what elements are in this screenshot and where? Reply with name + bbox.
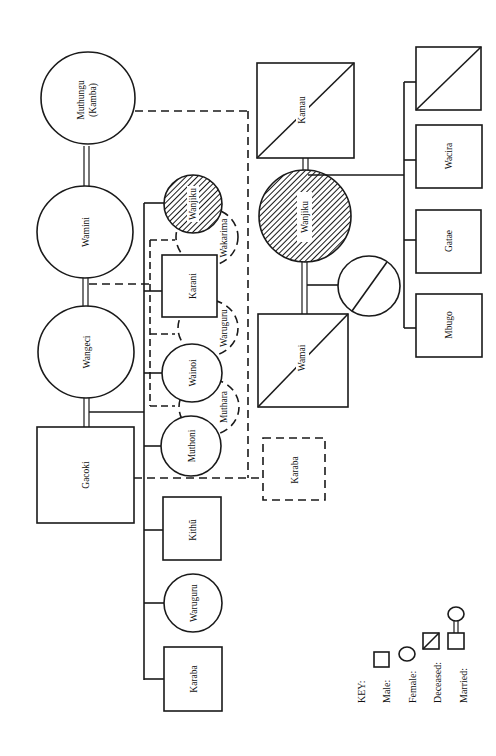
label-wanjiku-right: Wanjiku bbox=[300, 201, 310, 233]
person-karani: Karani bbox=[162, 255, 217, 317]
person-kithu: Kithũ bbox=[163, 497, 221, 560]
marriage-link-wangeci-gacoki bbox=[84, 398, 89, 427]
label-waruguru-daughter: Waruguru bbox=[189, 584, 199, 622]
person-kamau: Kamau bbox=[257, 63, 354, 158]
label-muthoni: Muthoni bbox=[187, 429, 197, 462]
person-wainoi: Wainoi bbox=[162, 344, 222, 402]
label-wainoi: Wainoi bbox=[188, 359, 198, 387]
legend-female-label: Female: bbox=[407, 671, 418, 703]
label-wangeci: Wangeci bbox=[82, 335, 92, 368]
label-wacira: Wacira bbox=[444, 142, 454, 169]
label-muthungu-kamba: (Kamba) bbox=[88, 83, 99, 117]
person-wangeci: Wangeci bbox=[38, 306, 134, 398]
person-wanjiku-right: Wanjiku bbox=[259, 170, 351, 262]
marriage-link-wanjiku-wamai bbox=[302, 262, 307, 314]
person-unnamed-deceased-male bbox=[416, 47, 481, 110]
legend-deceased-icon bbox=[423, 633, 439, 649]
legend-male-icon bbox=[374, 652, 389, 667]
legend-deceased-label: Deceased: bbox=[432, 662, 443, 703]
person-unnamed-deceased-female bbox=[338, 256, 400, 316]
person-wamini: Wamini bbox=[37, 186, 133, 278]
label-mbugo: Mbugo bbox=[444, 311, 454, 339]
marriage-link-kamau-wanjiku bbox=[303, 158, 308, 170]
legend-female-icon bbox=[399, 647, 415, 661]
label-wanjiku-left: Wanjiku bbox=[188, 188, 198, 220]
person-wacira: Wacira bbox=[416, 125, 482, 188]
marriage-link-wamini-wangeci bbox=[83, 278, 88, 306]
label-muthara: Muthara bbox=[219, 390, 229, 423]
label-waruguru-wife: Waruguru bbox=[219, 309, 229, 347]
person-gacoki: Gacoki bbox=[37, 427, 134, 523]
label-kamau: Kamau bbox=[297, 96, 307, 124]
legend-married-icon bbox=[448, 607, 464, 649]
label-gacoki: Gacoki bbox=[81, 461, 91, 489]
person-mbugo: Mbugo bbox=[416, 294, 482, 357]
label-gatae: Gatae bbox=[444, 230, 454, 252]
marriage-link-muthungu-wamini bbox=[84, 146, 89, 186]
kinship-diagram: Muthungu (Kamba) Wamini Wangeci Gacoki bbox=[0, 0, 496, 756]
label-muthungu: Muthungu bbox=[76, 80, 86, 120]
person-wanjiku-left: Wanjiku bbox=[164, 175, 222, 233]
label-kithu: Kithũ bbox=[188, 519, 198, 541]
label-wamini: Wamini bbox=[81, 217, 91, 247]
legend-title: KEY: bbox=[356, 681, 367, 703]
legend-married-label: Married: bbox=[458, 668, 469, 703]
label-wamai: Wamai bbox=[297, 344, 307, 371]
label-karaba-son: Karaba bbox=[189, 665, 199, 693]
person-waruguru-daughter: Waruguru bbox=[164, 574, 222, 632]
person-karaba-kamba: Karaba bbox=[263, 438, 325, 500]
person-muthoni: Muthoni bbox=[161, 416, 221, 476]
person-wamai: Wamai bbox=[258, 314, 348, 407]
label-karaba-kamba: Karaba bbox=[290, 456, 300, 484]
person-karaba-son: Karaba bbox=[164, 647, 222, 711]
person-gatae: Gatae bbox=[416, 210, 481, 273]
label-wakarima: Wakarima bbox=[219, 218, 229, 258]
legend: KEY: Male: Female: Deceased: Married: bbox=[356, 607, 469, 703]
legend-male-label: Male: bbox=[381, 680, 392, 703]
person-muthungu: Muthungu (Kamba) bbox=[41, 52, 135, 144]
label-karani: Karani bbox=[188, 273, 198, 299]
